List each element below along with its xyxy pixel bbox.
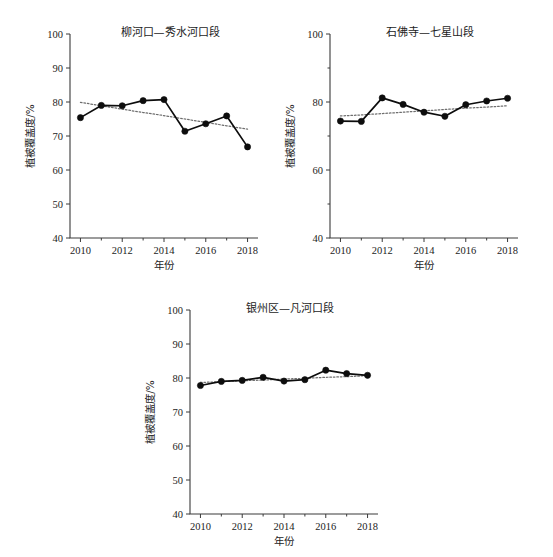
x-axis-title: 年份	[154, 259, 175, 270]
y-tick-label: 80	[313, 97, 324, 108]
x-tick-label: 2014	[274, 521, 296, 532]
chart-panel-shifosi-qixingshan: 40608010020102012201420162018石佛寺—七星山段年份植…	[278, 12, 526, 270]
y-tick-label: 90	[53, 63, 64, 74]
data-point-marker	[337, 118, 343, 124]
data-point-marker	[239, 377, 245, 383]
y-tick-label: 50	[53, 199, 64, 210]
data-point-marker	[260, 374, 266, 380]
trend-line	[80, 102, 247, 129]
y-tick-label: 60	[173, 441, 184, 452]
x-tick-label: 2010	[70, 245, 91, 256]
x-tick-label: 2018	[497, 245, 518, 256]
x-tick-label: 2010	[190, 521, 211, 532]
x-axis-title: 年份	[414, 259, 435, 270]
data-point-marker	[77, 115, 83, 121]
y-axis-title: 植被覆盖度/%	[24, 104, 36, 168]
data-point-marker	[98, 102, 104, 108]
axis-spines	[70, 34, 258, 238]
data-point-marker	[302, 377, 308, 383]
panel-title: 石佛寺—七星山段	[386, 25, 474, 39]
chart-panel-yinzhouqu-fanhekou: 40506070809010020102012201420162018银州区—凡…	[138, 288, 386, 546]
data-point-marker	[323, 367, 329, 373]
x-tick-label: 2012	[372, 245, 393, 256]
x-tick-label: 2012	[232, 521, 253, 532]
axis-spines	[330, 34, 518, 238]
panel-title: 银州区—凡河口段	[246, 301, 334, 315]
data-point-marker	[119, 103, 125, 109]
axis-spines	[190, 310, 378, 514]
data-point-marker	[140, 98, 146, 104]
chart-svg: 40608010020102012201420162018石佛寺—七星山段年份植…	[278, 12, 526, 270]
x-tick-label: 2018	[237, 245, 258, 256]
data-point-marker	[197, 382, 203, 388]
x-tick-label: 2012	[112, 245, 133, 256]
data-point-marker	[442, 113, 448, 119]
y-tick-label: 100	[307, 29, 323, 40]
data-point-marker	[224, 113, 230, 119]
x-tick-label: 2016	[195, 245, 216, 256]
data-point-marker	[421, 109, 427, 115]
data-point-marker	[504, 95, 510, 101]
y-tick-label: 60	[313, 165, 324, 176]
y-tick-label: 40	[53, 233, 64, 244]
y-tick-label: 50	[173, 475, 184, 486]
data-point-marker	[244, 144, 250, 150]
y-axis-title: 植被覆盖度/%	[284, 104, 296, 168]
x-tick-label: 2010	[330, 245, 351, 256]
data-point-marker	[358, 118, 364, 124]
data-point-marker	[463, 102, 469, 108]
data-point-marker	[161, 97, 167, 103]
y-tick-label: 70	[53, 131, 64, 142]
y-tick-label: 100	[47, 29, 63, 40]
chart-panel-liuhekou-xiushuihekou: 40506070809010020102012201420162018柳河口—秀…	[18, 12, 266, 270]
data-point-marker	[182, 128, 188, 134]
y-axis-title: 植被覆盖度/%	[144, 380, 156, 444]
y-tick-label: 60	[53, 165, 64, 176]
x-tick-label: 2014	[154, 245, 176, 256]
x-tick-label: 2016	[315, 521, 336, 532]
x-tick-label: 2016	[455, 245, 476, 256]
x-axis-title: 年份	[274, 535, 295, 546]
y-tick-label: 100	[167, 305, 183, 316]
panel-title: 柳河口—秀水河口段	[121, 25, 220, 39]
data-point-marker	[364, 372, 370, 378]
data-point-marker	[218, 378, 224, 384]
y-tick-label: 40	[173, 509, 184, 520]
data-point-marker	[203, 121, 209, 127]
y-tick-label: 80	[173, 373, 184, 384]
y-tick-label: 70	[173, 407, 184, 418]
data-point-marker	[344, 370, 350, 376]
y-tick-label: 40	[313, 233, 324, 244]
data-point-marker	[484, 98, 490, 104]
data-point-marker	[379, 95, 385, 101]
chart-svg: 40506070809010020102012201420162018柳河口—秀…	[18, 12, 266, 270]
y-tick-label: 80	[53, 97, 64, 108]
chart-svg: 40506070809010020102012201420162018银州区—凡…	[138, 288, 386, 546]
x-tick-label: 2014	[414, 245, 436, 256]
y-tick-label: 90	[173, 339, 184, 350]
data-point-marker	[281, 378, 287, 384]
vegetation-coverage-figure: 40506070809010020102012201420162018柳河口—秀…	[0, 0, 553, 557]
x-tick-label: 2018	[357, 521, 378, 532]
data-point-marker	[400, 101, 406, 107]
